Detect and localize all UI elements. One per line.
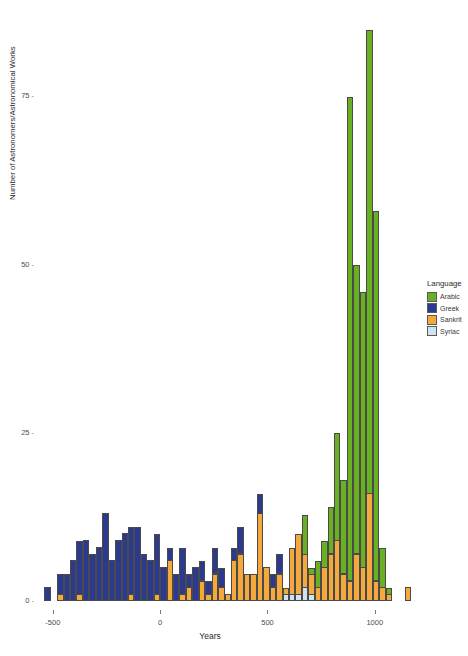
bar-segment-arabic	[373, 211, 379, 581]
chart-root: Number of Astronomers/Astronomical Works…	[0, 0, 468, 656]
x-axis-title: Years	[0, 631, 420, 641]
legend-item-syriac[interactable]: Syriac	[427, 326, 468, 338]
bar-segment-greek	[199, 561, 205, 581]
x-tick-mark	[53, 610, 54, 614]
bar-segment-sankrit	[405, 587, 411, 600]
legend-item-sankrit[interactable]: Sankrit	[427, 314, 468, 326]
legend-swatch-icon	[427, 303, 437, 313]
y-tick-label: 25-	[21, 427, 34, 436]
plot-area	[40, 8, 422, 600]
bar-segment-greek	[276, 554, 282, 574]
x-tick-label: 500	[261, 618, 274, 627]
histogram-bar	[386, 587, 392, 600]
y-axis-ticks: 0-25-50-75-	[0, 0, 40, 656]
bar-segment-arabic	[379, 548, 385, 588]
x-tick-label: 1000	[366, 618, 383, 627]
x-tick-mark	[375, 610, 376, 614]
legend-label: Greek	[440, 305, 459, 312]
x-tick-mark	[160, 610, 161, 614]
bar-segment-greek	[237, 527, 243, 554]
bar-segment-greek	[44, 587, 50, 600]
bar-segment-greek	[257, 494, 263, 514]
histogram-bar	[44, 587, 50, 600]
legend-item-arabic[interactable]: Arabic	[427, 291, 468, 303]
bar-segment-greek	[167, 548, 173, 561]
y-tick-label: 50-	[21, 259, 34, 268]
legend-label: Sankrit	[440, 316, 462, 323]
legend: Language ArabicGreekSankritSyriac	[427, 279, 468, 337]
legend-swatch-icon	[427, 315, 437, 325]
legend-title: Language	[427, 279, 468, 288]
legend-items: ArabicGreekSankritSyriac	[427, 291, 468, 337]
x-tick-label: 0	[158, 618, 162, 627]
x-tick-mark	[267, 610, 268, 614]
legend-item-greek[interactable]: Greek	[427, 303, 468, 315]
histogram-bar	[373, 210, 379, 600]
legend-label: Syriac	[440, 328, 459, 335]
x-tick-label: -500	[45, 618, 60, 627]
histogram-bar	[405, 587, 411, 600]
legend-label: Arabic	[440, 293, 460, 300]
bar-segment-greek	[218, 568, 224, 588]
bars-layer	[40, 8, 422, 600]
legend-swatch-icon	[427, 292, 437, 302]
legend-swatch-icon	[427, 326, 437, 336]
y-tick-label: 75-	[21, 91, 34, 100]
bar-segment-arabic	[302, 515, 308, 555]
